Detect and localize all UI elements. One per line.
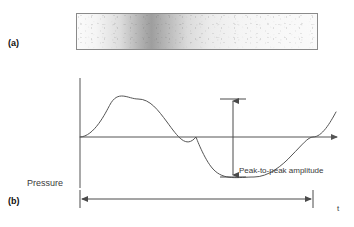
figure-root: (a) (b)	[0, 0, 354, 227]
time-axis-label: t	[337, 204, 339, 213]
compression-rarefaction-band	[76, 13, 318, 50]
pressure-axis-label: Pressure	[27, 178, 63, 188]
panel-letter-a: (a)	[8, 38, 19, 48]
waveform-svg	[0, 60, 354, 220]
pressure-vs-time-waveform: Pressure t Peak-to-peak amplitude Period…	[0, 60, 354, 220]
peak-to-peak-amplitude-label: Peak-to-peak amplitude	[239, 166, 324, 175]
band-speckle-texture	[77, 14, 317, 49]
